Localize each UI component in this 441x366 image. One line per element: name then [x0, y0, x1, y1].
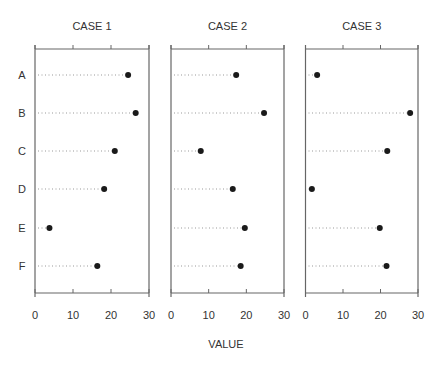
row-label-a: A — [18, 69, 26, 81]
data-point-a — [314, 72, 320, 78]
data-point-f — [384, 263, 390, 269]
panel-case-1: CASE 10102030 — [32, 20, 155, 321]
data-point-e — [46, 225, 52, 231]
row-labels: ABCDEF — [18, 69, 26, 272]
row-label-b: B — [18, 107, 25, 119]
panel-case-3: CASE 30102030 — [302, 20, 424, 321]
panels: CASE 10102030CASE 20102030CASE 30102030 — [32, 20, 424, 321]
data-point-c — [198, 148, 204, 154]
data-point-e — [242, 225, 248, 231]
x-tick-label: 20 — [240, 309, 252, 321]
row-label-e: E — [18, 222, 25, 234]
data-point-f — [238, 263, 244, 269]
row-label-c: C — [18, 145, 26, 157]
data-point-b — [407, 110, 413, 116]
x-tick-label: 10 — [337, 309, 349, 321]
row-label-d: D — [18, 183, 26, 195]
data-point-d — [309, 186, 315, 192]
data-point-b — [261, 110, 267, 116]
data-point-c — [112, 148, 118, 154]
x-tick-label: 20 — [374, 309, 386, 321]
data-point-e — [377, 225, 383, 231]
x-tick-label: 30 — [278, 309, 290, 321]
panel-title: CASE 1 — [72, 20, 111, 32]
data-point-a — [233, 72, 239, 78]
panel-title: CASE 2 — [208, 20, 247, 32]
x-tick-label: 20 — [105, 309, 117, 321]
x-tick-label: 10 — [67, 309, 79, 321]
x-tick-label: 30 — [412, 309, 424, 321]
x-tick-label: 0 — [302, 309, 308, 321]
x-tick-label: 10 — [203, 309, 215, 321]
row-label-f: F — [19, 260, 26, 272]
data-point-f — [94, 263, 100, 269]
data-point-b — [133, 110, 139, 116]
dot-plot-chart: CASE 10102030CASE 20102030CASE 30102030 … — [0, 0, 441, 366]
panel-title: CASE 3 — [342, 20, 381, 32]
x-tick-label: 0 — [32, 309, 38, 321]
x-axis-label: VALUE — [208, 338, 243, 350]
data-point-d — [101, 186, 107, 192]
data-point-d — [230, 186, 236, 192]
panel-case-2: CASE 20102030 — [168, 20, 290, 321]
data-point-c — [384, 148, 390, 154]
x-tick-label: 0 — [168, 309, 174, 321]
data-point-a — [125, 72, 131, 78]
x-tick-label: 30 — [143, 309, 155, 321]
